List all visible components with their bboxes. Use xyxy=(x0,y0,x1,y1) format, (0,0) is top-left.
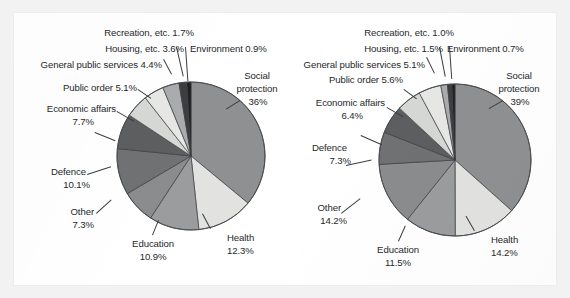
label-economic-affairs-left: Economic affairs xyxy=(14,103,116,114)
label-other-left: Other xyxy=(14,206,94,217)
label-housing-right: Housing, etc. 1.5% xyxy=(313,43,443,54)
label-economic-affairs-value-left: 7.7% xyxy=(14,116,94,127)
pie-chart-right: Recreation, etc. 1.0% Housing, etc. 1.5%… xyxy=(275,13,546,285)
label-general-public-services-left: General public services 4.4% xyxy=(14,59,162,70)
label-recreation-left: Recreation, etc. 1.7% xyxy=(69,27,229,38)
label-social-protection-line2-right: protection xyxy=(480,83,558,94)
figure-frame: Recreation, etc. 1.7% Housing, etc. 3.6%… xyxy=(14,13,556,285)
label-housing-left: Housing, etc. 3.6% xyxy=(54,43,184,54)
label-general-public-services-right: General public services 5.1% xyxy=(275,59,425,70)
leader-line xyxy=(185,47,188,81)
leader-line xyxy=(96,200,112,214)
pie-chart-left: Recreation, etc. 1.7% Housing, etc. 3.6%… xyxy=(14,13,285,285)
leader-line xyxy=(163,59,172,74)
label-education-left: Education xyxy=(118,238,188,249)
label-social-protection-right: Social xyxy=(484,70,554,81)
label-economic-affairs-right: Economic affairs xyxy=(275,97,385,108)
label-other-right: Other xyxy=(275,202,341,213)
label-other-value-right: 14.2% xyxy=(275,215,347,226)
label-education-value-right: 11.5% xyxy=(363,257,433,268)
label-recreation-right: Recreation, etc. 1.0% xyxy=(329,27,489,38)
leader-line xyxy=(95,132,116,141)
leader-line xyxy=(426,57,435,74)
label-health-value-right: 14.2% xyxy=(491,247,551,258)
label-environment-right: Environment 0.7% xyxy=(447,43,567,54)
label-other-value-left: 7.3% xyxy=(14,219,94,230)
label-defence-left: Defence xyxy=(14,166,86,177)
leader-line xyxy=(341,198,361,214)
label-social-protection-value-right: 39% xyxy=(488,96,552,107)
label-defence-value-left: 10.1% xyxy=(14,179,90,190)
label-public-order-left: Public order 5.1% xyxy=(14,82,137,93)
leader-line xyxy=(87,166,111,175)
label-defence-right: Defence xyxy=(275,142,347,153)
label-education-value-left: 10.9% xyxy=(118,251,188,262)
label-health-right: Health xyxy=(491,234,551,245)
label-public-order-right: Public order 5.6% xyxy=(275,74,403,85)
label-defence-value-right: 7.3% xyxy=(275,155,351,166)
figure-page: Recreation, etc. 1.7% Housing, etc. 3.6%… xyxy=(0,0,570,298)
label-economic-affairs-value-right: 6.4% xyxy=(275,110,363,121)
label-education-right: Education xyxy=(363,244,433,255)
